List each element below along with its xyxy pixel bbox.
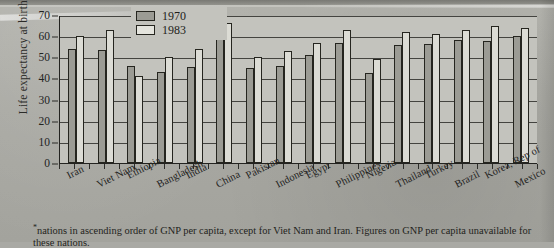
x-tick-mark [268, 164, 269, 169]
legend-swatch-1983 [136, 25, 155, 35]
y-tick-mark-50 [52, 58, 58, 59]
x-tick-mark-minor [492, 164, 493, 169]
y-tick-label-50: 50 [39, 53, 51, 65]
x-tick-mark-minor [462, 164, 463, 169]
legend-swatch-1970 [136, 11, 155, 21]
x-axis-tickmarks [59, 164, 537, 169]
bar-group [61, 16, 91, 163]
bar-1970-philippines [335, 43, 343, 164]
bar-group [388, 16, 418, 163]
y-tick-label-40: 40 [39, 74, 51, 86]
bar-1970-egypt [305, 55, 313, 163]
bar-1983-turkey [432, 34, 440, 163]
bar-1983-nigeria [373, 59, 381, 163]
bar-1970-iran [68, 49, 76, 163]
y-tick-label-20: 20 [39, 116, 51, 128]
bar-1970-korea-rep-of [483, 41, 491, 163]
bar-group [328, 16, 358, 163]
x-tick-mark [238, 164, 239, 169]
x-tick-mark-minor [253, 164, 254, 169]
x-tick-mark [298, 164, 299, 169]
x-tick-mark [179, 164, 180, 169]
bar-1970-pakistan [246, 68, 254, 163]
bar-1983-egypt [313, 43, 321, 164]
bar-group [417, 16, 447, 163]
bar-group [447, 16, 477, 163]
x-tick-mark [149, 164, 150, 169]
x-tick-mark [537, 164, 538, 169]
bar-1983-mexico [521, 28, 529, 163]
bar-1970-viet-nam [98, 50, 106, 163]
x-tick-mark [388, 164, 389, 169]
scan-right-gutter [540, 0, 554, 242]
x-tick-mark-minor [74, 164, 75, 169]
bar-1970-turkey [424, 44, 432, 163]
bar-1983-iran [76, 36, 84, 163]
y-tick-label-30: 30 [39, 95, 51, 107]
bar-1983-pakistan [254, 57, 262, 163]
y-axis-ticks: 010203040506070 [0, 0, 59, 180]
bar-1983-indonesia [284, 51, 292, 163]
x-tick-mark [418, 164, 419, 169]
bar-1970-thailand [394, 45, 402, 163]
legend-label-1970: 1970 [162, 10, 186, 22]
x-tick-mark-minor [104, 164, 105, 169]
y-tick-mark-70 [52, 16, 58, 17]
y-tick-mark-20 [52, 121, 58, 122]
bar-group [299, 16, 329, 163]
legend-label-1983: 1983 [162, 24, 186, 36]
x-tick-mark-minor [164, 164, 165, 169]
bar-group [477, 16, 507, 163]
x-tick-mark-minor [283, 164, 284, 169]
x-tick-mark-minor [193, 164, 194, 169]
bar-1983-ethiopia [135, 76, 143, 163]
bar-group [358, 16, 388, 163]
bar-1983-korea-rep-of [491, 26, 499, 163]
x-tick-mark [507, 164, 508, 169]
bar-1970-indonesia [276, 66, 284, 163]
y-tick-label-60: 60 [39, 31, 51, 43]
y-tick-mark-40 [52, 79, 58, 80]
y-tick-mark-10 [52, 142, 58, 143]
x-tick-mark [59, 164, 60, 169]
bar-1970-bangladesh [157, 72, 165, 163]
bar-1983-philippines [343, 30, 351, 163]
x-tick-mark-minor [373, 164, 374, 169]
chart-footnote: *nations in ascending order of GNP per c… [33, 222, 545, 248]
bar-1970-china [216, 36, 224, 163]
legend-item-1983: 1983 [136, 23, 223, 37]
bar-1983-china [224, 23, 232, 163]
x-tick-mark [358, 164, 359, 169]
bar-1970-nigeria [365, 73, 373, 163]
bar-1983-india [195, 49, 203, 163]
x-tick-mark-minor [223, 164, 224, 169]
bar-1983-brazil [462, 30, 470, 163]
x-tick-mark [328, 164, 329, 169]
y-tick-label-70: 70 [39, 10, 51, 22]
x-tick-mark [119, 164, 120, 169]
y-tick-mark-30 [52, 100, 58, 101]
bar-1983-thailand [402, 32, 410, 163]
bar-1983-viet-nam [106, 30, 114, 163]
chart-legend: 1970 1983 [131, 7, 227, 40]
x-tick-mark [89, 164, 90, 169]
bar-1970-ethiopia [127, 66, 135, 163]
bar-1970-mexico [513, 36, 521, 163]
x-tick-mark-minor [134, 164, 135, 169]
y-tick-mark-60 [52, 37, 58, 38]
x-tick-mark-minor [432, 164, 433, 169]
footnote-line-1: nations in ascending order of GNP per ca… [37, 225, 466, 236]
scan-streak-right [300, 4, 554, 8]
bar-group [239, 16, 269, 163]
bar-1970-brazil [454, 40, 462, 163]
y-tick-label-0: 0 [44, 158, 50, 170]
bar-group [269, 16, 299, 163]
x-tick-mark [447, 164, 448, 169]
y-tick-label-10: 10 [39, 137, 51, 149]
bar-group [91, 16, 121, 163]
x-tick-mark-minor [403, 164, 404, 169]
x-tick-mark-minor [343, 164, 344, 169]
bar-1983-bangladesh [165, 57, 173, 163]
bar-1970-india [187, 67, 195, 163]
x-tick-mark [477, 164, 478, 169]
